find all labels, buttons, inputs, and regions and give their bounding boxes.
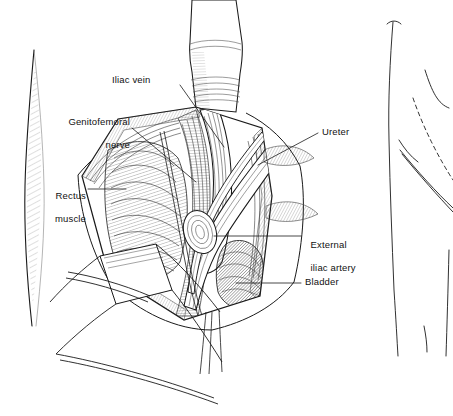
label-genitofemoral-nerve-line1: Genitofemoral — [68, 116, 130, 127]
label-rectus-muscle: Rectus muscle — [0, 178, 86, 224]
label-external-iliac-artery-line1: External — [311, 239, 347, 250]
label-genitofemoral-nerve: Genitofemoral nerve — [0, 104, 130, 150]
label-iliac-vein: Iliac vein — [112, 74, 150, 86]
label-rectus-muscle-line1: Rectus — [56, 190, 86, 201]
label-rectus-muscle-line2: muscle — [55, 213, 86, 224]
label-ureter: Ureter — [322, 126, 349, 138]
label-bladder: Bladder — [305, 276, 339, 288]
label-external-iliac-artery-line2: iliac artery — [311, 262, 356, 273]
label-external-iliac-artery: External iliac artery — [305, 227, 356, 273]
label-genitofemoral-nerve-line2: nerve — [105, 139, 130, 150]
